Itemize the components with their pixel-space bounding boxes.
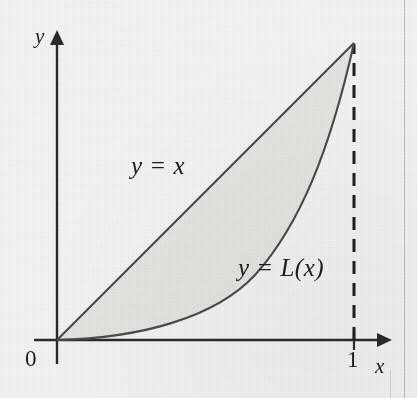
curve-label-line-of-equality: y = x [131, 153, 185, 178]
y-axis-arrowhead [50, 30, 64, 45]
y-axis-label: y [35, 26, 44, 47]
x-axis-label: x [375, 356, 384, 377]
page-edge-rule-secondary [390, 370, 391, 398]
page-edge-rule [404, 0, 405, 398]
x-tick-one-label: 1 [347, 348, 359, 371]
origin-label: 0 [25, 347, 37, 370]
plot-canvas [0, 0, 417, 398]
x-axis-arrowhead [377, 333, 392, 347]
lorenz-curve-figure: y x 0 1 y = x y = L(x) [0, 0, 417, 398]
curve-label-lorenz: y = L(x) [238, 255, 324, 280]
